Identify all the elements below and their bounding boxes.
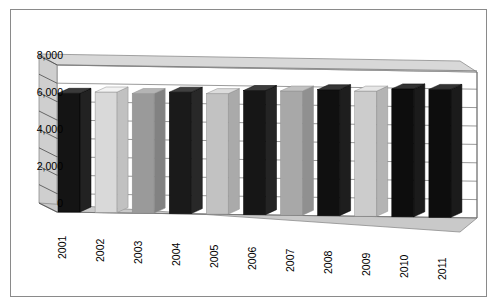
x-tick-label-2009: 2009 [361,253,372,276]
x-tick-label-2006: 2006 [247,247,258,270]
x-tick-label-2007: 2007 [285,249,296,272]
screenshot-root: 8,000 6,000 4,000 2,000 0 2001 2002 2003… [0,0,497,307]
x-tick-label-2010: 2010 [399,255,410,278]
x-tick-label-2002: 2002 [95,239,106,262]
x-tick-label-2004: 2004 [171,243,182,266]
x-tick-label-2011: 2011 [437,257,448,280]
x-axis-labels: 2001 2002 2003 2004 2005 2006 2007 2008 … [11,10,488,298]
x-tick-label-2003: 2003 [133,241,144,264]
x-tick-label-2008: 2008 [323,251,334,274]
x-tick-label-2001: 2001 [57,236,68,259]
chart-frame: 8,000 6,000 4,000 2,000 0 2001 2002 2003… [10,9,487,297]
x-tick-label-2005: 2005 [209,245,220,268]
plot-area: 8,000 6,000 4,000 2,000 0 2001 2002 2003… [11,10,488,298]
